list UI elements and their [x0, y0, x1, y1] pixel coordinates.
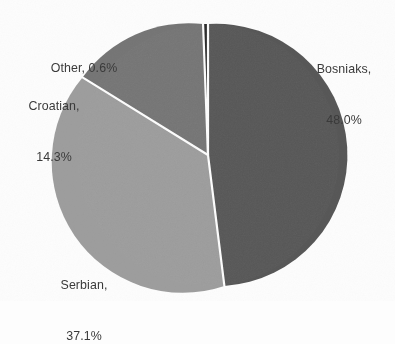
pie-label-croatian-value: 14.3% [6, 149, 102, 166]
pie-label-bosniaks-name: Bosniaks, [296, 61, 392, 78]
pie-label-serbian: Serbian, 37.1% [36, 243, 132, 344]
pie-label-serbian-value: 37.1% [36, 328, 132, 344]
pie-label-bosniaks: Bosniaks, 48.0% [296, 27, 392, 163]
pie-label-serbian-name: Serbian, [36, 277, 132, 294]
pie-label-other-text: Other, 0.6% [36, 60, 132, 77]
pie-label-other: Other, 0.6% [36, 26, 132, 111]
pie-label-bosniaks-value: 48.0% [296, 112, 392, 129]
